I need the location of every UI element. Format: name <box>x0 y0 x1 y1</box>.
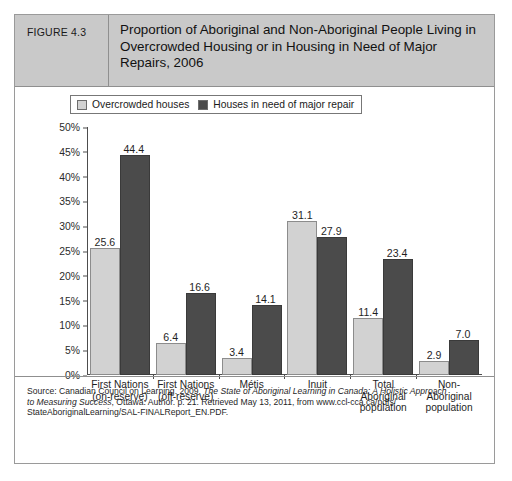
legend-item-major-repair: Houses in need of major repair <box>198 99 354 110</box>
source-title-part-1: The State of Aboriginal Learning in Cana… <box>203 386 446 396</box>
chart-body: Overcrowded houses Houses in need of maj… <box>15 87 494 420</box>
bar: 31.1 <box>287 221 317 375</box>
bar-group: 31.127.9 <box>284 127 350 375</box>
y-axis-tick: 45% <box>59 146 87 157</box>
chart-legend: Overcrowded houses Houses in need of maj… <box>70 95 362 114</box>
bar-group: 2.97.0 <box>416 127 482 375</box>
bar: 14.1 <box>252 305 282 375</box>
source-line-3: StateAboriginalLearning/SAL-FINALReport_… <box>27 407 482 418</box>
bar-value-label: 44.4 <box>123 143 144 156</box>
bar: 44.4 <box>120 155 150 375</box>
y-axis-tick: 20% <box>59 270 87 281</box>
source-title-part-2: to Measuring Success <box>27 397 112 407</box>
legend-swatch-icon-major-repair <box>198 100 208 110</box>
bar-value-label: 27.9 <box>321 225 342 238</box>
bar-group: 11.423.4 <box>350 127 416 375</box>
bar-groups: 25.644.46.416.63.414.131.127.911.423.42.… <box>87 127 482 375</box>
bar: 2.9 <box>419 361 449 375</box>
legend-swatch-icon-overcrowded <box>77 100 87 110</box>
legend-item-overcrowded: Overcrowded houses <box>77 99 189 110</box>
bar: 11.4 <box>353 318 383 375</box>
bar-value-label: 16.6 <box>189 281 210 294</box>
source-note: Source: Canadian Council on Learning. 20… <box>15 376 494 420</box>
bar-value-label: 7.0 <box>456 328 471 341</box>
y-axis-tick: 40% <box>59 171 87 182</box>
y-axis-tick: 35% <box>59 196 87 207</box>
bar-value-label: 11.4 <box>358 306 378 319</box>
legend-label-major-repair: Houses in need of major repair <box>213 99 354 110</box>
bar: 25.6 <box>90 248 120 375</box>
bar-value-label: 31.1 <box>292 209 313 222</box>
source-prefix: Source: Canadian Council on Learning. 20… <box>27 386 201 396</box>
bar: 7.0 <box>449 340 479 375</box>
bar-value-label: 25.6 <box>95 236 116 249</box>
source-line-2: to Measuring Success, Ottawa: Author. p.… <box>27 397 482 408</box>
bar-value-label: 23.4 <box>387 247 408 260</box>
figure-header: FIGURE 4.3 Proportion of Aboriginal and … <box>15 15 494 87</box>
y-axis-tick: 50% <box>59 122 87 133</box>
y-axis-tick: 15% <box>59 295 87 306</box>
plot-area: 0%5%10%15%20%25%30%35%40%45%50% 25.644.4… <box>87 127 482 375</box>
bar-group: 25.644.4 <box>87 127 153 375</box>
bar-group: 3.414.1 <box>219 127 285 375</box>
y-axis-tick: 25% <box>59 246 87 257</box>
bar-group: 6.416.6 <box>153 127 219 375</box>
bar-value-label: 14.1 <box>255 293 276 306</box>
y-axis-tick: 5% <box>65 345 87 356</box>
bar-value-label: 6.4 <box>163 331 178 344</box>
figure-number: FIGURE 4.3 <box>15 15 109 86</box>
source-citation-rest: , Ottawa: Author. p. 21. Retrieved May 1… <box>112 397 397 407</box>
bar: 6.4 <box>156 343 186 375</box>
bar-value-label: 3.4 <box>229 346 244 359</box>
bar: 27.9 <box>317 237 347 375</box>
bar: 23.4 <box>383 259 413 375</box>
bar-value-label: 2.9 <box>427 349 442 362</box>
source-line-1: Source: Canadian Council on Learning. 20… <box>27 386 482 397</box>
legend-label-overcrowded: Overcrowded houses <box>92 99 189 110</box>
bar: 3.4 <box>222 358 252 375</box>
figure-container: FIGURE 4.3 Proportion of Aboriginal and … <box>14 14 495 464</box>
y-axis-tick: 10% <box>59 320 87 331</box>
y-axis-tick: 30% <box>59 221 87 232</box>
figure-title: Proportion of Aboriginal and Non-Aborigi… <box>109 15 494 86</box>
bar: 16.6 <box>186 293 216 375</box>
